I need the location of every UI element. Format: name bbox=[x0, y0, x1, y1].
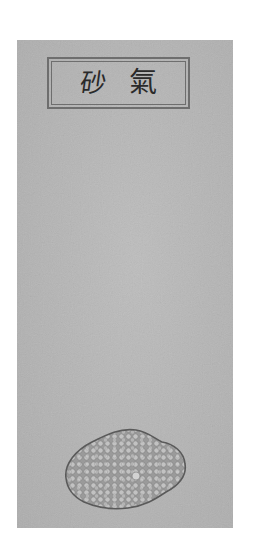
plate-page: 砂 氣 bbox=[17, 40, 233, 528]
title-label-inner-border: 砂 氣 bbox=[51, 61, 186, 105]
stone-specimen-illustration bbox=[62, 426, 188, 512]
title-label: 砂 氣 bbox=[47, 57, 190, 109]
title-char-qi: 氣 bbox=[129, 69, 157, 97]
title-char-sha: 砂 bbox=[78, 70, 108, 96]
